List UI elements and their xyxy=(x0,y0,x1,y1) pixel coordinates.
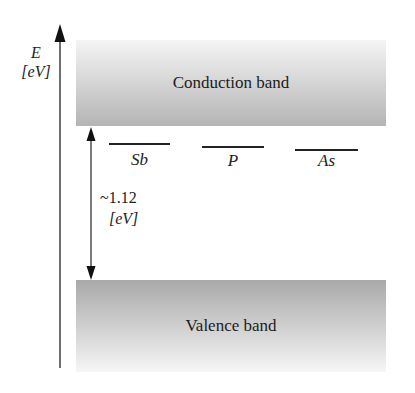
conduction-band: Conduction band xyxy=(76,40,386,126)
donor-level-sb-label: Sb xyxy=(109,150,170,170)
donor-level-p-line xyxy=(202,146,264,148)
valence-band: Valence band xyxy=(76,280,386,372)
axis-symbol: E xyxy=(26,44,46,62)
donor-level-p-label: P xyxy=(202,151,264,171)
axis-unit-text: [eV] xyxy=(21,63,50,80)
donor-level-sb-line xyxy=(109,143,170,145)
donor-level-as-label: As xyxy=(295,151,358,171)
band-gap-unit: [eV] xyxy=(109,210,138,228)
conduction-band-label: Conduction band xyxy=(173,73,290,93)
band-gap-value: ~1.12 xyxy=(100,189,137,207)
axis-unit: [eV] xyxy=(16,63,56,81)
valence-band-label: Valence band xyxy=(185,316,276,336)
